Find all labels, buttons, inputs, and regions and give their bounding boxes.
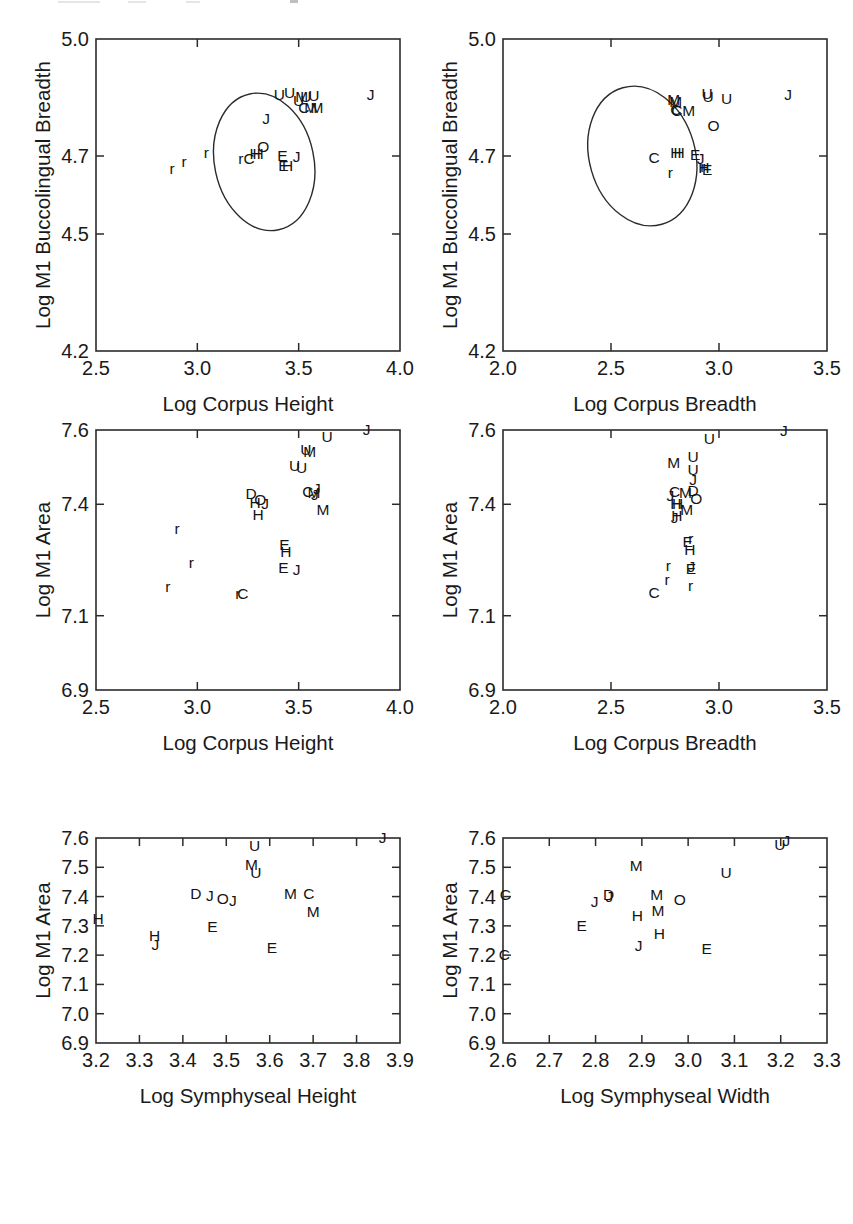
- x-tick-label: 3.3: [126, 1049, 154, 1071]
- x-tick-label: 3.5: [813, 357, 841, 379]
- data-point: r: [174, 520, 179, 537]
- data-point: U: [249, 837, 260, 854]
- panel-3-canvas: 2.53.03.54.06.97.17.47.6rrrrCDHOJHEHEJUU…: [0, 400, 427, 810]
- data-point: J: [687, 558, 695, 575]
- data-point: E: [702, 161, 712, 178]
- x-tick-label: 2.7: [535, 1049, 563, 1071]
- panel-2: 2.02.53.03.54.24.54.75.0CrHHMMCCMEJrHEUU…: [427, 0, 853, 400]
- y-tick-label: 6.9: [61, 1032, 89, 1054]
- y-tick-label: 7.0: [61, 1003, 89, 1025]
- data-point: C: [237, 585, 248, 602]
- data-point: M: [682, 102, 695, 119]
- data-point: J: [293, 561, 301, 578]
- data-point: O: [674, 891, 686, 908]
- x-tick-label: 2.5: [597, 696, 625, 718]
- panel-3: 2.53.03.54.06.97.17.47.6rrrrCDHOJHEHEJUU…: [0, 400, 427, 810]
- y-axis-title: Log M1 Area: [31, 501, 54, 618]
- data-point: O: [708, 117, 720, 134]
- y-tick-label: 7.4: [468, 493, 496, 515]
- data-point: J: [262, 110, 270, 127]
- data-point: U: [250, 864, 261, 881]
- y-axis-title: Log M1 Buccolingual Breadth: [31, 61, 54, 329]
- data-point: C: [649, 584, 660, 601]
- data-point: M: [307, 903, 320, 920]
- y-tick-label: 7.3: [61, 915, 89, 937]
- y-tick-label: 7.1: [61, 605, 89, 627]
- y-tick-label: 7.1: [468, 605, 496, 627]
- data-point: J: [152, 936, 160, 953]
- x-tick-label: 2.9: [628, 1049, 656, 1071]
- data-point: r: [189, 554, 194, 571]
- y-axis-title: Log M1 Area: [31, 882, 54, 999]
- x-tick-label: 4.0: [386, 696, 414, 718]
- data-point: E: [577, 917, 587, 934]
- data-point: r: [204, 144, 209, 161]
- y-tick-label: 7.2: [61, 944, 89, 966]
- figure-scatterplot-matrix: 2.53.03.54.04.24.54.75.0rrrrCHHOJEEHJUUU…: [0, 0, 853, 1224]
- data-point: C: [649, 149, 660, 166]
- x-axis-title: Log Symphyseal Height: [140, 1084, 357, 1107]
- data-point: J: [206, 887, 214, 904]
- panel-1: 2.53.03.54.04.24.54.75.0rrrrCHHOJEEHJUUU…: [0, 0, 427, 400]
- data-point: r: [688, 577, 693, 594]
- data-point: r: [668, 164, 673, 181]
- plot-frame: [96, 430, 400, 690]
- y-tick-label: 7.6: [468, 419, 496, 441]
- x-tick-label: 3.6: [256, 1049, 284, 1071]
- x-tick-label: 3.5: [285, 357, 313, 379]
- y-tick-label: 7.0: [468, 1003, 496, 1025]
- data-point: E: [701, 940, 711, 957]
- y-tick-label: 6.9: [468, 1032, 496, 1054]
- plot-frame: [503, 39, 827, 351]
- x-axis-title: Log Corpus Height: [163, 731, 334, 754]
- x-tick-label: 3.0: [674, 1049, 702, 1071]
- data-point: C: [499, 946, 510, 963]
- y-tick-label: 7.4: [61, 493, 89, 515]
- data-point: H: [673, 144, 684, 161]
- data-point: H: [280, 543, 291, 560]
- x-axis-title: Log Symphyseal Width: [560, 1084, 770, 1107]
- y-tick-label: 6.9: [61, 679, 89, 701]
- y-tick-label: 7.6: [468, 827, 496, 849]
- y-axis-title: Log M1 Area: [438, 501, 461, 618]
- data-point: M: [284, 885, 297, 902]
- data-point: r: [165, 578, 170, 595]
- y-tick-label: 5.0: [468, 28, 496, 50]
- panel-6: 2.62.72.82.93.03.13.23.36.97.07.17.27.37…: [427, 810, 853, 1224]
- x-tick-label: 3.0: [705, 357, 733, 379]
- y-axis-title: Log M1 Buccolingual Breadth: [438, 61, 461, 329]
- data-point: r: [182, 153, 187, 170]
- data-point: M: [667, 454, 680, 471]
- y-tick-label: 4.5: [61, 223, 89, 245]
- data-point: U: [703, 88, 714, 105]
- data-point: J: [293, 148, 301, 165]
- data-point: J: [379, 829, 387, 846]
- data-point: J: [782, 832, 790, 849]
- y-axis-title: Log M1 Area: [438, 882, 461, 999]
- data-point: U: [296, 459, 307, 476]
- data-point: r: [666, 557, 671, 574]
- data-point: U: [687, 448, 698, 465]
- y-tick-label: 4.2: [468, 340, 496, 362]
- data-point: H: [654, 925, 665, 942]
- data-point: J: [229, 892, 237, 909]
- data-point: M: [650, 886, 663, 903]
- data-point: O: [217, 890, 229, 907]
- panel-2-canvas: 2.02.53.03.54.24.54.75.0CrHHMMCCMEJrHEUU…: [427, 0, 853, 400]
- data-point: J: [784, 86, 792, 103]
- y-tick-label: 4.2: [61, 340, 89, 362]
- data-point: C: [303, 885, 314, 902]
- x-tick-label: 3.5: [813, 696, 841, 718]
- x-tick-label: 3.0: [705, 696, 733, 718]
- x-tick-label: 2.8: [582, 1049, 610, 1071]
- data-point: J: [780, 422, 788, 439]
- data-point: H: [253, 506, 264, 523]
- data-point: J: [591, 893, 599, 910]
- y-tick-label: 6.9: [468, 679, 496, 701]
- panel-4: 2.02.53.03.56.97.17.47.6CrrJCHHJHMMMEHrE…: [427, 400, 853, 810]
- x-tick-label: 3.2: [767, 1049, 795, 1071]
- panel-1-canvas: 2.53.03.54.04.24.54.75.0rrrrCHHOJEEHJUUU…: [0, 0, 427, 400]
- data-point: J: [606, 888, 614, 905]
- data-point: M: [303, 443, 316, 460]
- data-point: H: [282, 157, 293, 174]
